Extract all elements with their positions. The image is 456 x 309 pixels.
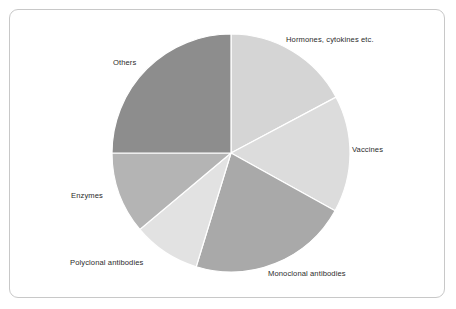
pie-slice-group	[112, 34, 350, 272]
pie-slice[interactable]	[112, 34, 231, 153]
pie-label-hormones: Hormones, cytokines etc.	[286, 36, 374, 45]
pie-chart: Hormones, cytokines etc. Vaccines Monocl…	[0, 0, 456, 309]
pie-label-monoclonal-antibodies: Monoclonal antibodies	[268, 270, 346, 279]
pie-chart-svg	[0, 0, 456, 309]
figure-root: Hormones, cytokines etc. Vaccines Monocl…	[0, 0, 456, 309]
pie-label-polyclonal-antibodies: Polyclonal antibodies	[70, 259, 143, 268]
pie-label-enzymes: Enzymes	[71, 192, 103, 201]
pie-label-vaccines: Vaccines	[352, 146, 383, 155]
pie-label-others: Others	[113, 59, 136, 68]
